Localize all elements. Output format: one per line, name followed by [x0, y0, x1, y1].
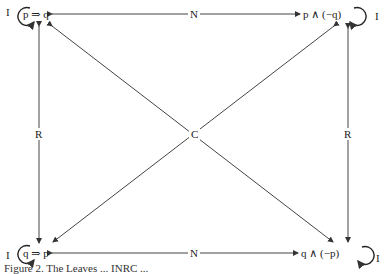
node-q-and-not-p: q ∧ (−p): [301, 247, 339, 259]
loop-label-top-left: I: [6, 6, 10, 18]
loop-label-bottom-left: I: [6, 249, 10, 261]
loop-icon-top-right: [350, 7, 366, 25]
node-p-implies-q: p ⇒ q: [23, 8, 49, 20]
loop-icon-bottom-right: [358, 246, 374, 264]
edge-label-top-n: N: [188, 8, 200, 20]
loop-label-top-right: I: [375, 10, 379, 22]
edge-label-diagonal-c: C: [189, 128, 200, 140]
edge-label-left-r: R: [33, 128, 44, 140]
figure-caption: Figure 2. The Leaves ... INRC ...: [4, 262, 148, 274]
node-q-implies-p: q ⇒ p: [23, 247, 49, 259]
node-p-and-not-q: p ∧ (−q): [303, 8, 341, 20]
edge-label-bottom-n: N: [188, 247, 200, 259]
edge-label-right-r: R: [342, 128, 353, 140]
loop-label-bottom-right: I: [376, 252, 380, 264]
